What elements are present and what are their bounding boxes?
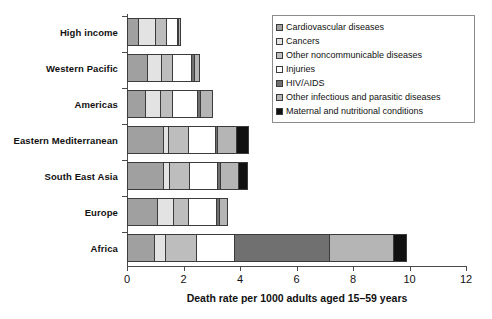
bar-segment [155, 235, 166, 261]
bar-segment [189, 127, 217, 153]
legend-item: HIV/AIDS [276, 76, 470, 90]
category-label: Western Pacific [46, 63, 118, 74]
x-axis-tick-label: 4 [237, 273, 243, 285]
legend-item: Injuries [276, 62, 470, 76]
x-axis-tick [410, 266, 411, 271]
x-axis-tick-label: 0 [124, 273, 130, 285]
category-label: High income [60, 27, 118, 38]
bar-segment [156, 19, 167, 45]
bar-row: Europe [127, 194, 466, 230]
stacked-bar [127, 18, 181, 46]
category-label: Africa [90, 243, 118, 254]
bar-segment [139, 19, 156, 45]
bar-row: Africa [127, 230, 466, 266]
category-label: Europe [85, 207, 118, 218]
bar-segment [162, 55, 173, 81]
legend-label: Other infectious and parasitic diseases [286, 93, 441, 102]
bar-segment [221, 163, 238, 189]
stacked-bar [127, 234, 407, 262]
legend-swatch [276, 66, 283, 73]
x-axis-tick [184, 266, 185, 271]
legend-item: Other infectious and parasitic diseases [276, 90, 470, 104]
bar-segment [128, 163, 164, 189]
stacked-bar [127, 198, 228, 226]
bar-segment [189, 199, 217, 225]
x-axis-tick [466, 266, 467, 271]
legend-swatch [276, 24, 283, 31]
bar-segment [128, 55, 148, 81]
y-axis-tick [122, 232, 127, 233]
bar-segment [169, 127, 188, 153]
legend-item: Maternal and nutritional conditions [276, 104, 470, 118]
bar-segment [128, 199, 158, 225]
bar-segment [166, 235, 197, 261]
y-axis-tick [122, 52, 127, 53]
bar-segment [148, 55, 162, 81]
legend-label: Other noncommunicable diseases [286, 51, 422, 60]
bar-segment [235, 235, 330, 261]
bar-segment [190, 163, 218, 189]
legend-swatch [276, 52, 283, 59]
bar-segment [173, 55, 193, 81]
bar-segment [197, 235, 235, 261]
legend-item: Other noncommunicable diseases [276, 48, 470, 62]
x-axis-tick-label: 2 [180, 273, 186, 285]
bar-segment [220, 199, 227, 225]
stacked-bar [127, 126, 249, 154]
stacked-bar [127, 162, 248, 190]
stacked-bar [127, 90, 213, 118]
bar-segment [179, 19, 180, 45]
bar-segment [394, 235, 405, 261]
bar-segment [239, 163, 248, 189]
bar-segment [218, 127, 237, 153]
y-axis-tick [122, 124, 127, 125]
bar-segment [128, 127, 164, 153]
category-label: Eastern Mediterranean [13, 135, 118, 146]
legend-label: Maternal and nutritional conditions [286, 107, 423, 116]
bar-segment [237, 127, 248, 153]
x-axis-tick-label: 12 [460, 273, 472, 285]
y-axis-tick [122, 196, 127, 197]
legend-swatch [276, 38, 283, 45]
x-axis-tick [127, 266, 128, 271]
bar-segment [174, 199, 189, 225]
bar-segment [128, 19, 139, 45]
bar-segment [128, 235, 155, 261]
bar-row: South East Asia [127, 158, 466, 194]
bar-segment [173, 91, 198, 117]
legend-label: Injuries [286, 65, 315, 74]
legend-swatch [276, 94, 283, 101]
x-axis-tick-label: 8 [350, 273, 356, 285]
category-label: Americas [74, 99, 118, 110]
legend-label: Cancers [286, 37, 320, 46]
x-axis-tick [240, 266, 241, 271]
category-label: South East Asia [45, 171, 118, 182]
x-axis-tick-label: 6 [293, 273, 299, 285]
legend-item: Cardiovascular diseases [276, 20, 470, 34]
legend-label: HIV/AIDS [286, 79, 325, 88]
bar-segment [170, 163, 190, 189]
bar-segment [161, 91, 173, 117]
chart-legend: Cardiovascular diseasesCancersOther nonc… [272, 15, 475, 123]
legend-swatch [276, 108, 283, 115]
bar-segment [128, 91, 146, 117]
bar-chart: High incomeWestern PacificAmericasEaster… [0, 0, 492, 319]
stacked-bar [127, 54, 200, 82]
bar-row: Eastern Mediterranean [127, 122, 466, 158]
x-axis-title: Death rate per 1000 adults aged 15–59 ye… [127, 292, 467, 304]
bar-segment [195, 55, 199, 81]
bar-segment [167, 19, 178, 45]
x-axis-tick [353, 266, 354, 271]
legend-item: Cancers [276, 34, 470, 48]
bar-segment [146, 91, 160, 117]
bar-segment [201, 91, 212, 117]
y-axis-tick [122, 16, 127, 17]
legend-label: Cardiovascular diseases [286, 23, 384, 32]
legend-swatch [276, 80, 283, 87]
x-axis-tick [297, 266, 298, 271]
y-axis-tick [122, 88, 127, 89]
bar-segment [330, 235, 395, 261]
x-axis-tick-label: 10 [403, 273, 415, 285]
y-axis-tick [122, 160, 127, 161]
bar-segment [158, 199, 173, 225]
